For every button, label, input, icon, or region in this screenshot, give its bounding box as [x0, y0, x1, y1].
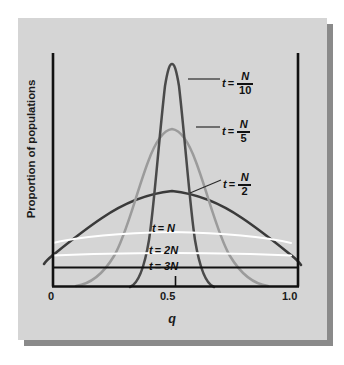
curve-label-t-n-over-2-fraction: N 2 [238, 172, 251, 198]
curve-label-t-n-over-10-numerator: N [239, 71, 251, 83]
x-tick-label-05: 0.5 [160, 290, 175, 302]
curve-label-t-n-over-2-equals: = [229, 179, 235, 190]
curve-label-t-n-over-5: t = N 5 [222, 119, 250, 145]
curve-label-t-n-over-10: t = N 10 [222, 71, 253, 97]
figure-root: Proportion of populations q 0 0.5 1.0 t … [0, 0, 344, 365]
curve-label-t-2n-rhs: 2N [164, 245, 178, 256]
curve-label-t-n-over-2-numerator: N [239, 172, 251, 184]
curve-label-t-3n-equals: = [155, 261, 161, 272]
x-tick-label-0: 0 [48, 290, 54, 302]
curve-label-t-n-over-10-equals: = [228, 78, 234, 89]
curve-label-t-3n-var: t [149, 261, 153, 272]
curve-label-t-n-var: t [152, 223, 156, 234]
curve-label-t-n-over-5-denominator: 5 [239, 133, 249, 145]
curve-label-t-2n: t = 2N [149, 245, 180, 256]
curve-label-t-n-over-10-var: t [222, 78, 226, 89]
curve-label-t-3n: t = 3N [149, 261, 180, 272]
curve-label-t-n-over-10-fraction: N 10 [237, 71, 253, 97]
curve-label-t-2n-equals: = [155, 245, 161, 256]
y-axis-label: Proportion of populations [25, 54, 37, 244]
curve-label-t-n-over-2-denominator: 2 [240, 186, 250, 198]
curve-label-t-n-rhs: N [167, 223, 175, 234]
x-axis-label: q [140, 312, 204, 326]
curve-label-t-2n-var: t [149, 245, 153, 256]
curve-label-t-n: t = N [152, 223, 177, 234]
curve-label-t-n-over-5-numerator: N [238, 119, 250, 131]
curve-label-t-n-over-5-var: t [222, 126, 226, 137]
x-tick-label-10: 1.0 [282, 290, 297, 302]
curve-label-t-n-over-5-fraction: N 5 [237, 119, 250, 145]
curve-label-t-n-over-2-var: t [223, 179, 227, 190]
curve-label-t-n-equals: = [158, 223, 164, 234]
curve-label-t-n-over-5-equals: = [228, 126, 234, 137]
curve-label-t-3n-rhs: 3N [164, 261, 178, 272]
curve-t-n-over-2-left-tail [44, 255, 53, 264]
curve-label-t-n-over-2: t = N 2 [223, 172, 251, 198]
curve-label-t-n-over-10-denominator: 10 [237, 85, 253, 97]
